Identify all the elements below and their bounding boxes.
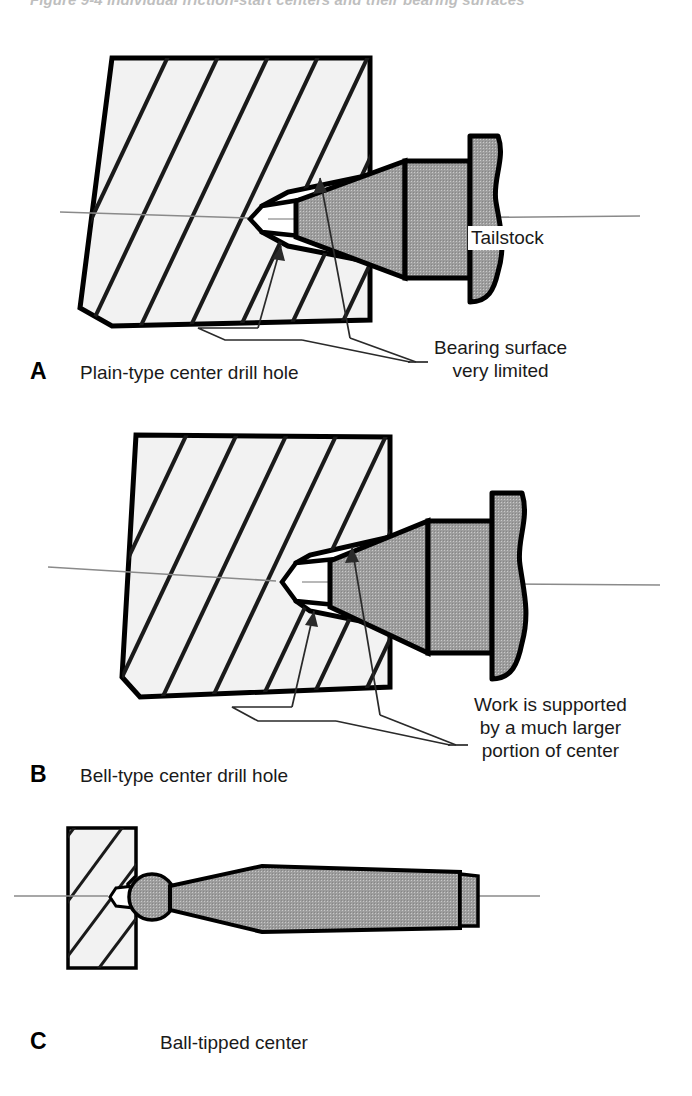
panel-letter-b: B [30,761,47,788]
center-break-end [492,493,526,679]
panel-a: Tailstock Bearing surface very limited A… [0,40,692,385]
panel-letter-a: A [30,358,47,385]
panel-caption-b: Bell-type center drill hole [80,765,288,787]
work-supported-note-line-3: portion of center [474,739,627,762]
panel-b: Work is supported by a much larger porti… [0,415,692,810]
work-supported-note-line-1: Work is supported [474,693,627,716]
work-supported-note-line-2: by a much larger [474,716,627,739]
panel-a-diagram [0,40,692,385]
center-taper-shank [170,866,460,932]
center-shank [405,161,470,278]
panel-caption-a: Plain-type center drill hole [80,362,299,384]
center-shank [428,521,492,653]
figure-root: Figure 9-4 Individual friction-start cen… [0,0,692,1096]
figure-top-caption: Figure 9-4 Individual friction-start cen… [30,0,525,8]
work-supported-note: Work is supported by a much larger porti… [474,693,627,763]
panel-c-diagram [0,820,692,1080]
ball-tipped-center-c [129,866,478,932]
panel-letter-c: C [30,1028,47,1055]
center-tang [460,874,478,926]
bearing-surface-note-line-2: very limited [434,359,567,382]
center-break-end [470,136,502,302]
panel-caption-c: Ball-tipped center [160,1032,308,1054]
bearing-surface-note: Bearing surface very limited [434,336,567,382]
bearing-surface-note-line-1: Bearing surface [434,336,567,359]
tailstock-label: Tailstock [468,226,547,250]
panel-c: C Ball-tipped center [0,820,692,1080]
